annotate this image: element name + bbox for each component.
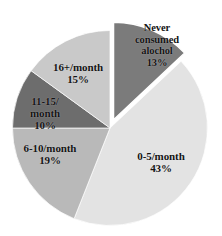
pie-slice-group — [13, 22, 208, 225]
pie-chart-canvas — [0, 0, 222, 236]
pie-chart: Never consumed alochol 13% 0-5/month 43%… — [0, 0, 222, 236]
